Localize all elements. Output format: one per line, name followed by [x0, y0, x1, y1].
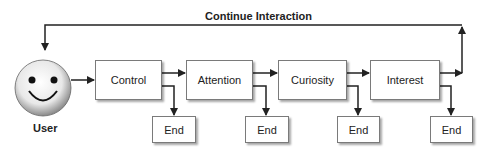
- stage-interest-label: Interest: [387, 74, 424, 86]
- end-box-control: End: [152, 116, 196, 143]
- end-box-interest: End: [430, 116, 473, 143]
- stage-curiosity-box: Curiosity: [278, 60, 347, 100]
- user-label: User: [33, 122, 57, 134]
- stage-control-label: Control: [111, 74, 146, 86]
- stage-control-box: Control: [95, 60, 162, 100]
- end-box-attention: End: [245, 116, 289, 143]
- end-label: End: [257, 124, 277, 136]
- stage-curiosity-label: Curiosity: [291, 74, 334, 86]
- stage-attention-label: Attention: [198, 74, 241, 86]
- end-box-curiosity: End: [337, 116, 380, 143]
- end-label: End: [349, 124, 369, 136]
- end-label: End: [164, 124, 184, 136]
- stage-interest-box: Interest: [370, 60, 440, 100]
- continue-interaction-label: Continue Interaction: [205, 10, 312, 22]
- stage-attention-box: Attention: [186, 60, 253, 100]
- user-smiley-icon: [15, 60, 71, 116]
- end-label: End: [442, 124, 462, 136]
